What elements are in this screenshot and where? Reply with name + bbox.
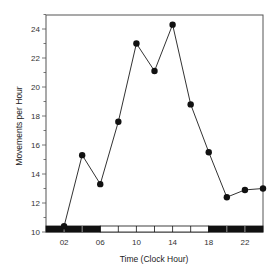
series-line xyxy=(64,25,263,227)
y-tick-label: 18 xyxy=(31,112,40,121)
x-tick-label: 06 xyxy=(96,238,105,247)
y-tick-label: 12 xyxy=(31,199,40,208)
data-point-marker xyxy=(242,187,248,193)
data-point-marker xyxy=(133,40,139,46)
y-tick-label: 24 xyxy=(31,25,40,34)
data-series xyxy=(61,21,266,229)
data-point-marker xyxy=(61,223,67,229)
y-tick-label: 22 xyxy=(31,54,40,63)
y-tick-label: 10 xyxy=(31,228,40,237)
line-chart: 1012141618202224 020610141822 Time (Cloc… xyxy=(0,0,278,273)
y-tick-label: 16 xyxy=(31,141,40,150)
data-point-marker xyxy=(169,21,175,27)
x-tick-label: 02 xyxy=(60,238,69,247)
plot-frame xyxy=(46,15,263,232)
data-point-marker xyxy=(115,119,121,125)
data-point-marker xyxy=(206,149,212,155)
x-axis-ticks: 020610141822 xyxy=(60,238,250,247)
data-point-marker xyxy=(151,68,157,74)
x-tick-label: 14 xyxy=(168,238,177,247)
y-axis-ticks: 1012141618202224 xyxy=(31,15,46,238)
x-tick-label: 10 xyxy=(132,238,141,247)
y-tick-label: 14 xyxy=(31,170,40,179)
data-point-marker xyxy=(79,152,85,158)
x-tick-label: 22 xyxy=(240,238,249,247)
light-dark-bar xyxy=(46,226,263,232)
data-point-marker xyxy=(187,101,193,107)
data-point-marker xyxy=(260,185,266,191)
x-axis-label: Time (Clock Hour) xyxy=(120,254,189,264)
data-point-marker xyxy=(224,194,230,200)
plot-border xyxy=(46,15,263,232)
dark-phase-segment xyxy=(209,226,263,232)
y-axis-label: Movements per Hour xyxy=(14,86,24,166)
data-point-marker xyxy=(97,181,103,187)
x-tick-label: 18 xyxy=(204,238,213,247)
dark-phase-segment xyxy=(46,226,100,232)
y-tick-label: 20 xyxy=(31,83,40,92)
